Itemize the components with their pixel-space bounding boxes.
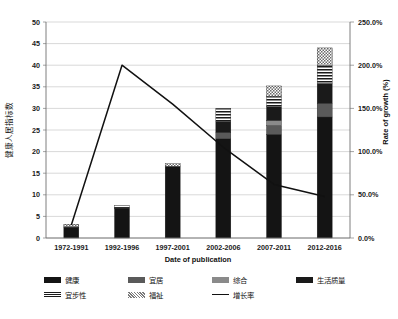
bar-series-group [64, 48, 332, 238]
bar-segment [267, 107, 282, 121]
bar-segment [115, 208, 130, 238]
y2-tick-label: 250.0% [358, 18, 383, 27]
legend-item-quality-of-life: 生活质量 [296, 274, 345, 285]
bar-stack [64, 224, 79, 238]
bar-segment [267, 86, 282, 96]
bar-segment [216, 139, 231, 238]
bar-segment [216, 121, 231, 132]
bar-stack [115, 206, 130, 238]
x-axis-category-labels: 1972-19911992-19961997-20012002-20062007… [54, 243, 342, 252]
y2-tick-label: 200.0% [358, 61, 383, 70]
y-tick-label: 30 [32, 104, 40, 113]
legend-item-health: 健康 [44, 274, 128, 285]
y2-axis-ticks: 0.0%50.0%100.0%150.0%200.0%250.0% [350, 18, 383, 243]
gridlines [46, 22, 350, 238]
chart-svg: 05101520253035404550 0.0%50.0%100.0%150.… [0, 0, 398, 270]
x-tick-label: 2002-2006 [206, 243, 240, 252]
legend-swatch-quality-of-life [296, 277, 313, 283]
y2-tick-label: 150.0% [358, 104, 383, 113]
bar-stack [317, 48, 332, 238]
legend-swatch-wellbeing [128, 292, 145, 298]
legend-item-growth-rate: 增长率 [212, 289, 296, 300]
bar-stack [165, 164, 180, 238]
x-tick-label: 1992-1996 [105, 243, 139, 252]
y-tick-label: 15 [32, 169, 40, 178]
y-tick-label: 45 [32, 39, 40, 48]
x-axis-title: Date of publication [165, 255, 232, 264]
bar-segment [267, 126, 282, 135]
bar-segment [216, 108, 231, 121]
legend-label-growth-rate: 增长率 [233, 289, 254, 300]
y2-tick-label: 100.0% [358, 147, 383, 156]
bar-stack [216, 108, 231, 238]
y-tick-label: 5 [36, 212, 40, 221]
legend-label-comprehensive: 综合 [233, 274, 247, 285]
bar-segment [267, 96, 282, 106]
legend-label-livable: 宜居 [149, 274, 163, 285]
legend-swatch-growth-rate [212, 292, 229, 298]
chart-container: 05101520253035404550 0.0%50.0%100.0%150.… [0, 0, 398, 319]
y-tick-label: 10 [32, 190, 40, 199]
bar-segment [317, 117, 332, 238]
y-tick-label: 25 [32, 126, 40, 135]
bar-segment [64, 228, 79, 238]
legend-label-health: 健康 [65, 274, 79, 285]
y-tick-label: 35 [32, 82, 40, 91]
y2-tick-label: 0.0% [358, 234, 375, 243]
legend-row-1: 健康 宜居 综合 生活质量 [0, 272, 398, 287]
legend-item-comprehensive: 综合 [212, 274, 296, 285]
growth-rate-line [71, 65, 324, 225]
legend-label-quality-of-life: 生活质量 [317, 274, 345, 285]
y2-axis-title: Rate of growth (%) [381, 79, 390, 145]
legend-item-walkability: 宜步性 [44, 289, 128, 300]
legend-swatch-livable [128, 277, 145, 283]
line-series-growth-rate [71, 65, 324, 225]
bar-stack [267, 86, 282, 238]
bar-segment [216, 133, 231, 139]
legend-label-wellbeing: 福祉 [149, 289, 163, 300]
y-axis-ticks: 05101520253035404550 [32, 18, 46, 243]
bar-segment [317, 48, 332, 65]
y-axis-title: 健康人居指标数 [4, 102, 14, 158]
bar-segment [165, 164, 180, 167]
chart-plot-area: 05101520253035404550 0.0%50.0%100.0%150.… [0, 0, 398, 270]
y-tick-label: 0 [36, 234, 40, 243]
y-tick-label: 40 [32, 61, 40, 70]
legend-row-2: 宜步性 福祉 增长率 [0, 287, 398, 302]
bar-segment [115, 206, 130, 208]
legend-item-wellbeing: 福祉 [128, 289, 212, 300]
legend-swatch-comprehensive [212, 277, 229, 283]
chart-legend: 健康 宜居 综合 生活质量 宜步性 福祉 [0, 272, 398, 317]
legend-swatch-health [44, 277, 61, 283]
x-tick-label: 2007-2011 [257, 243, 291, 252]
y2-tick-label: 50.0% [358, 190, 379, 199]
bar-segment [317, 83, 332, 103]
legend-item-livable: 宜居 [128, 274, 212, 285]
x-tick-label: 1997-2001 [155, 243, 189, 252]
legend-swatch-walkability [44, 292, 61, 298]
x-tick-label: 1972-1991 [54, 243, 88, 252]
bar-segment [317, 65, 332, 83]
bar-segment [317, 103, 332, 117]
bar-segment [165, 166, 180, 238]
y-tick-label: 20 [32, 147, 40, 156]
x-tick-label: 2012-2016 [307, 243, 341, 252]
y-tick-label: 50 [32, 18, 40, 27]
legend-label-walkability: 宜步性 [65, 289, 86, 300]
bar-segment [267, 120, 282, 125]
